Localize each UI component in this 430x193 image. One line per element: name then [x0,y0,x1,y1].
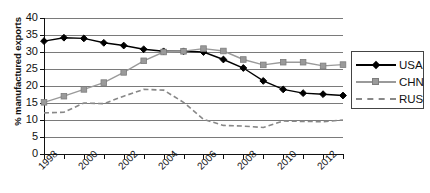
data-point-chn [141,58,147,64]
series-line-rus [44,89,343,127]
data-point-usa [220,56,227,63]
data-point-chn [101,80,107,86]
legend-label: CHN [396,76,424,88]
data-point-chn [181,49,187,55]
data-point-usa [100,39,107,46]
data-point-chn [261,62,267,68]
legend-item-usa[interactable]: USA [356,57,423,73]
data-point-usa [300,90,307,97]
legend-line-icon [356,98,396,100]
data-point-chn [221,48,227,54]
data-point-usa [80,35,87,42]
data-point-usa [320,91,327,98]
legend-diamond-icon [372,61,380,69]
data-point-chn [81,87,87,93]
data-point-chn [320,63,326,69]
series-line-usa [44,38,343,96]
data-point-usa [41,38,48,45]
data-point-usa [61,34,68,41]
series-line-chn [44,49,343,103]
data-point-chn [201,46,207,52]
legend-label: USA [396,59,423,71]
data-point-usa [120,42,127,49]
legend: USACHNRUS [351,51,424,109]
data-point-chn [61,93,67,99]
line-chart: % manufactured exports 0510152025303540 … [0,0,430,193]
data-point-chn [41,100,47,106]
legend-square-icon [372,78,379,85]
legend-swatch-rus [356,93,396,105]
data-point-chn [161,49,167,55]
legend-swatch-chn [356,76,396,88]
legend-item-rus[interactable]: RUS [356,91,423,107]
data-point-usa [280,86,287,93]
legend-item-chn[interactable]: CHN [356,74,424,90]
legend-label: RUS [396,93,423,105]
legend-swatch-usa [356,59,396,71]
data-point-chn [280,59,286,65]
data-point-usa [340,92,347,99]
data-point-chn [241,57,247,63]
data-point-chn [300,59,306,65]
data-point-chn [121,70,127,76]
data-point-usa [140,46,147,53]
data-point-chn [340,62,346,68]
